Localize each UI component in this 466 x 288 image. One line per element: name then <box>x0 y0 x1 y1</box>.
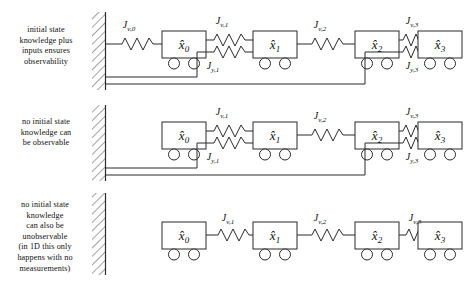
spring-label-jy3: Jy,3 <box>406 151 419 165</box>
spring-jv1-row-3 <box>206 229 253 241</box>
spring-jv1-row-1 <box>206 34 253 46</box>
mass-labels-row-1: x̂0 x̂1 x̂2 x̂3 <box>178 37 446 54</box>
spring-label-jv2: Jv,2 <box>314 19 327 33</box>
spring-label-jv1: Jv,1 <box>222 212 234 226</box>
spring-jv2-row-2 <box>297 129 355 141</box>
feedback-lines-row-2 <box>106 168 365 175</box>
figure-canvas: initial state knowledge plus inputs ensu… <box>0 0 466 288</box>
spring-label-jv3: Jv,3 <box>409 212 422 226</box>
spring-label-jy1: Jy,1 <box>207 60 219 74</box>
spring-label-jv1: Jv,1 <box>216 15 228 29</box>
mass-labels-row-2: x̂0 x̂1 x̂2 x̂3 <box>178 128 446 145</box>
spring-label-jv1: Jv,1 <box>216 106 228 120</box>
row-3-group <box>92 193 462 275</box>
spring-label-jy3: Jy,3 <box>406 60 419 74</box>
mass-labels-row-3: x̂0 x̂1 x̂2 x̂3 <box>178 228 446 245</box>
diagram-svg: x̂0 x̂1 x̂2 x̂3 x̂0 x̂1 x̂2 x̂3 <box>0 0 466 288</box>
spring-label-jv2: Jv,2 <box>314 212 327 226</box>
spring-jv0-row-1 <box>106 38 162 50</box>
spring-jv2-row-1 <box>297 38 355 50</box>
wall-row-1 <box>92 12 106 90</box>
spring-jv2-row-3 <box>297 229 355 241</box>
wall-row-3 <box>92 193 106 275</box>
feedback-lines-row-1 <box>106 77 365 84</box>
spring-label-jv2: Jv,2 <box>314 110 327 124</box>
spring-label-jv3: Jv,3 <box>406 15 419 29</box>
spring-jv1-row-2 <box>206 125 253 137</box>
spring-label-jy1: Jy,1 <box>207 151 219 165</box>
spring-label-jv0: Jv,0 <box>123 19 136 33</box>
spring-label-jv3: Jv,3 <box>406 106 419 120</box>
wall-row-2 <box>92 105 106 181</box>
